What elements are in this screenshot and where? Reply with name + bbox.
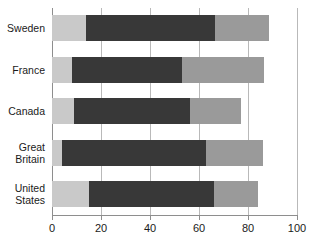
category-label: United States (0, 182, 45, 206)
bar-segment-medium-gray-segment (190, 98, 240, 124)
x-tick-label: 60 (193, 222, 205, 234)
bar-segment-medium-gray-segment (182, 57, 264, 83)
bar-segment-light-gray-segment (52, 181, 89, 207)
stacked-bar (52, 140, 263, 166)
x-tick-40 (150, 215, 151, 220)
category-label: France (0, 64, 45, 76)
stacked-bar (52, 98, 241, 124)
bar-chart: SwedenFranceCanadaGreat BritainUnited St… (0, 0, 314, 243)
stacked-bar (52, 15, 269, 41)
bar-segment-medium-gray-segment (214, 181, 258, 207)
bar-row (52, 98, 297, 124)
x-tick-80 (248, 215, 249, 220)
bar-segment-dark-gray-segment (62, 140, 207, 166)
x-tick-label: 40 (144, 222, 156, 234)
bar-row (52, 57, 297, 83)
bar-segment-dark-gray-segment (86, 15, 215, 41)
x-tick-20 (101, 215, 102, 220)
bar-segment-dark-gray-segment (72, 57, 182, 83)
x-tick-label: 100 (288, 222, 306, 234)
plot-area (52, 8, 297, 215)
bar-segment-dark-gray-segment (74, 98, 190, 124)
x-tick-100 (297, 215, 298, 220)
category-label: Canada (0, 105, 45, 117)
x-tick-0 (52, 215, 53, 220)
stacked-bar (52, 57, 264, 83)
x-tick-60 (199, 215, 200, 220)
x-tick-label: 20 (95, 222, 107, 234)
stacked-bar (52, 181, 258, 207)
bar-segment-medium-gray-segment (215, 15, 269, 41)
bar-row (52, 181, 297, 207)
gridline-100 (297, 8, 298, 215)
bar-segment-light-gray-segment (52, 57, 72, 83)
x-axis-line (52, 215, 298, 216)
bar-row (52, 15, 297, 41)
bar-segment-light-gray-segment (52, 15, 86, 41)
bar-segment-dark-gray-segment (89, 181, 214, 207)
bar-segment-light-gray-segment (52, 140, 62, 166)
bar-row (52, 140, 297, 166)
bar-segment-light-gray-segment (52, 98, 74, 124)
x-tick-label: 0 (49, 222, 55, 234)
category-label: Sweden (0, 22, 45, 34)
category-label: Great Britain (0, 141, 45, 165)
bar-segment-medium-gray-segment (206, 140, 262, 166)
x-tick-label: 80 (242, 222, 254, 234)
